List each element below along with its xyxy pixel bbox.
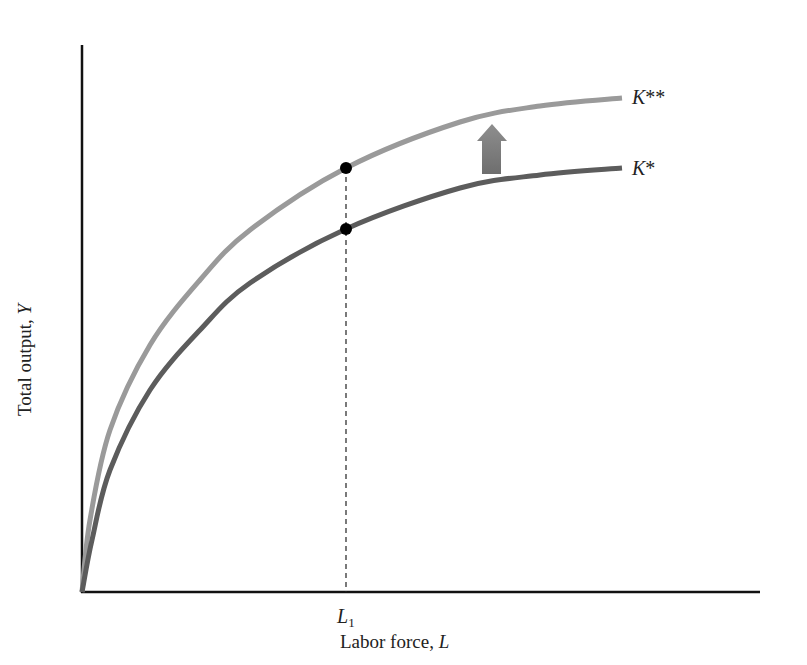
- curve-k-double-star: [82, 98, 622, 592]
- point-k-double-star-at-l1: [340, 162, 352, 174]
- point-k-star-at-l1: [340, 223, 352, 235]
- x-axis-label: Labor force, L: [340, 631, 449, 653]
- label-k-double-star: K**: [632, 86, 665, 109]
- curve-k-star: [82, 168, 622, 592]
- production-function-diagram: [0, 0, 807, 665]
- y-axis-label: Total output, Y: [14, 245, 54, 475]
- shift-up-arrow-icon: [477, 124, 507, 174]
- label-k-star: K*: [632, 157, 655, 180]
- x-tick-l1: L1: [337, 605, 355, 631]
